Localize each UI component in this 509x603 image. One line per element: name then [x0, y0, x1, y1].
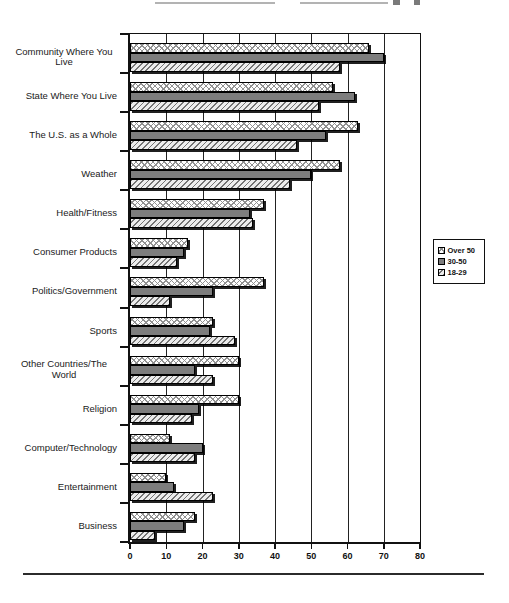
bar-computer-technology-30-50	[130, 443, 203, 453]
bar-weather-18-29	[130, 179, 290, 189]
x-axis-tick	[383, 544, 385, 549]
category-label: The U.S. as a Whole	[29, 130, 117, 141]
legend-label: 30-50	[448, 257, 467, 266]
category-row-politics-government: Politics/Government	[0, 277, 117, 306]
plot-area	[128, 33, 421, 544]
category-label: Consumer Products	[33, 247, 117, 258]
cropped-text-remnant	[393, 0, 400, 5]
bar-business-30-50	[130, 521, 184, 531]
category-row-state-where-you-live: State Where You Live	[0, 82, 117, 111]
bar-the-u-s-as-a-whole-30-50	[130, 131, 326, 141]
bar-sports-18-29	[130, 336, 235, 346]
x-axis-tick	[347, 544, 349, 549]
legend-item-30-50: 30-50	[438, 257, 481, 266]
x-axis-label-30: 30	[226, 551, 252, 561]
bar-politics-government-over-50	[130, 277, 264, 287]
bar-health-fitness-18-29	[130, 218, 253, 228]
bar-the-u-s-as-a-whole-over-50	[130, 121, 358, 131]
bar-community-where-you-live-18-29	[130, 62, 340, 72]
bar-other-countries-the-world-30-50	[130, 365, 195, 375]
category-label: State Where You Live	[26, 91, 117, 102]
x-axis-label-50: 50	[298, 551, 324, 561]
category-row-weather: Weather	[0, 160, 117, 189]
y-axis-tick	[120, 346, 128, 348]
x-axis-tick	[202, 544, 204, 549]
y-axis-tick	[120, 541, 128, 543]
category-row-community-where-you-live: Community Where You Live	[0, 43, 117, 72]
bar-religion-30-50	[130, 404, 199, 414]
x-axis-tick	[166, 544, 168, 549]
x-axis-label-10: 10	[153, 551, 179, 561]
bar-computer-technology-18-29	[130, 453, 195, 463]
gridline-60	[348, 34, 349, 542]
y-axis-tick	[120, 111, 128, 113]
x-axis: 01020304050607080	[130, 544, 420, 570]
y-axis-tick	[120, 463, 128, 465]
bar-religion-over-50	[130, 395, 239, 405]
cropped-text-remnant	[300, 2, 388, 4]
category-label: Weather	[81, 169, 117, 180]
bottom-rule	[23, 573, 484, 575]
bar-consumer-products-30-50	[130, 248, 184, 258]
bar-business-18-29	[130, 531, 155, 541]
category-label: Politics/Government	[32, 286, 117, 297]
bar-entertainment-30-50	[130, 482, 174, 492]
cropped-text-remnant	[155, 2, 275, 4]
bar-other-countries-the-world-over-50	[130, 356, 239, 366]
category-row-consumer-products: Consumer Products	[0, 238, 117, 267]
legend-item-18-29: 18-29	[438, 268, 481, 277]
bar-health-fitness-30-50	[130, 209, 250, 219]
bar-weather-30-50	[130, 170, 311, 180]
category-row-other-countries-the-world: Other Countries/The World	[0, 356, 117, 385]
bar-the-u-s-as-a-whole-18-29	[130, 140, 297, 150]
bar-computer-technology-over-50	[130, 434, 170, 444]
category-row-sports: Sports	[0, 317, 117, 346]
y-axis-tick	[120, 385, 128, 387]
x-axis-label-0: 0	[117, 551, 143, 561]
category-label: Computer/Technology	[25, 443, 117, 454]
x-axis-tick	[238, 544, 240, 549]
y-axis-tick	[120, 424, 128, 426]
category-row-business: Business	[0, 512, 117, 541]
category-label: Sports	[90, 326, 117, 337]
bar-business-over-50	[130, 512, 195, 522]
bar-state-where-you-live-30-50	[130, 92, 355, 102]
bar-politics-government-30-50	[130, 287, 213, 297]
category-label: Religion	[83, 404, 117, 415]
cropped-text-remnant	[414, 0, 420, 5]
bar-entertainment-over-50	[130, 473, 166, 483]
y-axis-tick	[120, 72, 128, 74]
x-axis-tick	[274, 544, 276, 549]
x-axis-label-70: 70	[371, 551, 397, 561]
x-axis-label-40: 40	[262, 551, 288, 561]
y-axis-tick	[120, 189, 128, 191]
y-axis-tick	[120, 267, 128, 269]
y-axis-tick	[120, 502, 128, 504]
bar-consumer-products-over-50	[130, 238, 188, 248]
x-axis-tick	[419, 544, 421, 549]
legend-swatch-18-29	[438, 269, 445, 276]
bar-sports-over-50	[130, 317, 213, 327]
legend-label: 18-29	[448, 268, 467, 277]
category-label: Other Countries/The World	[11, 359, 117, 380]
category-label: Entertainment	[58, 482, 117, 493]
y-axis-tick	[120, 33, 128, 35]
bar-sports-30-50	[130, 326, 210, 336]
bar-other-countries-the-world-18-29	[130, 375, 213, 385]
category-axis-labels: Community Where You LiveState Where You …	[0, 34, 122, 542]
x-axis-label-60: 60	[335, 551, 361, 561]
category-label: Business	[78, 521, 117, 532]
bar-community-where-you-live-over-50	[130, 43, 369, 53]
category-row-religion: Religion	[0, 395, 117, 424]
x-axis-tick	[311, 544, 313, 549]
bar-entertainment-18-29	[130, 492, 213, 502]
x-axis-tick	[129, 544, 131, 549]
legend: Over 50 30-50 18-29	[433, 239, 485, 284]
gridline-70	[384, 34, 385, 542]
legend-label: Over 50	[448, 246, 476, 255]
category-row-entertainment: Entertainment	[0, 473, 117, 502]
bar-religion-18-29	[130, 414, 192, 424]
x-axis-label-20: 20	[190, 551, 216, 561]
y-axis-tick	[120, 307, 128, 309]
x-axis-label-80: 80	[407, 551, 433, 561]
